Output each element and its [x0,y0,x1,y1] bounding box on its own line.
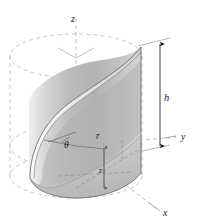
top-center-tick-right [76,48,94,58]
z-coordinate-label: z [98,166,102,175]
radius-label: r [96,131,100,141]
z-axis-label: z [70,13,75,24]
cylindrical-coordinates-diagram: z y x h r θ z [0,0,198,222]
theta-label: θ [64,140,69,150]
x-axis-tip [148,202,160,211]
height-extension-bottom [138,145,170,152]
x-axis-label: x [162,207,168,218]
height-label: h [164,92,169,103]
axis-tips [148,136,176,211]
height-extension-top [138,38,170,46]
top-center-tick-left [58,48,76,58]
figure-container: z y x h r θ z [0,0,198,222]
y-axis-label: y [180,131,186,142]
